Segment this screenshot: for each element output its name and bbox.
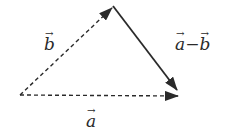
vector-diagram: →b →a−→b →a	[0, 0, 234, 135]
vector-b-line	[20, 8, 112, 95]
label-a: →a	[86, 113, 96, 130]
vector-arrow-icon: →	[87, 106, 95, 116]
vector-triangle	[0, 0, 234, 135]
vector-arrow-icon: →	[200, 29, 208, 39]
vector-arrow-icon: →	[45, 29, 53, 39]
label-b: →b	[44, 36, 55, 53]
vector-arrow-icon: →	[176, 29, 184, 39]
vector-a-minus-b-line	[113, 6, 177, 90]
vector-a-line	[20, 95, 178, 96]
label-a-minus-b: →a−→b	[175, 36, 210, 53]
